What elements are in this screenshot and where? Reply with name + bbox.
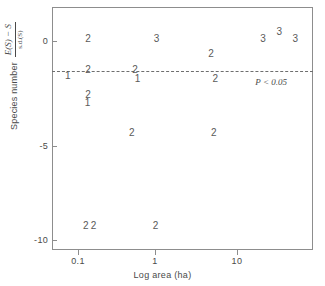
scatter-plot-figure: 0-5-10 0.1110 122212132233322222 P < 0.0… bbox=[0, 0, 325, 286]
x-tick-mark bbox=[155, 250, 156, 255]
y-axis-title: Species number E(S) − S s.d.(S) bbox=[0, 1, 28, 151]
x-tick-mark bbox=[237, 250, 238, 255]
y-tick-label: -10 bbox=[22, 236, 48, 245]
plot-frame bbox=[52, 7, 313, 250]
x-tick-label: 0.1 bbox=[71, 257, 85, 266]
y-tick-mark bbox=[52, 146, 57, 147]
x-axis-title: Log area (ha) bbox=[0, 270, 325, 280]
y-tick-mark bbox=[52, 41, 57, 42]
x-tick-label: 10 bbox=[232, 257, 243, 266]
significance-threshold-label: P < 0.05 bbox=[255, 77, 287, 87]
x-tick-label: 1 bbox=[152, 257, 157, 266]
y-axis-fraction-denominator: s.d.(S) bbox=[16, 28, 24, 50]
y-axis-title-text: Species number bbox=[9, 62, 19, 130]
y-axis-fraction-numerator: E(S) − S bbox=[4, 22, 14, 57]
y-tick-mark bbox=[52, 240, 57, 241]
y-axis-title-fraction: E(S) − S s.d.(S) bbox=[4, 22, 24, 57]
x-tick-mark bbox=[78, 250, 79, 255]
